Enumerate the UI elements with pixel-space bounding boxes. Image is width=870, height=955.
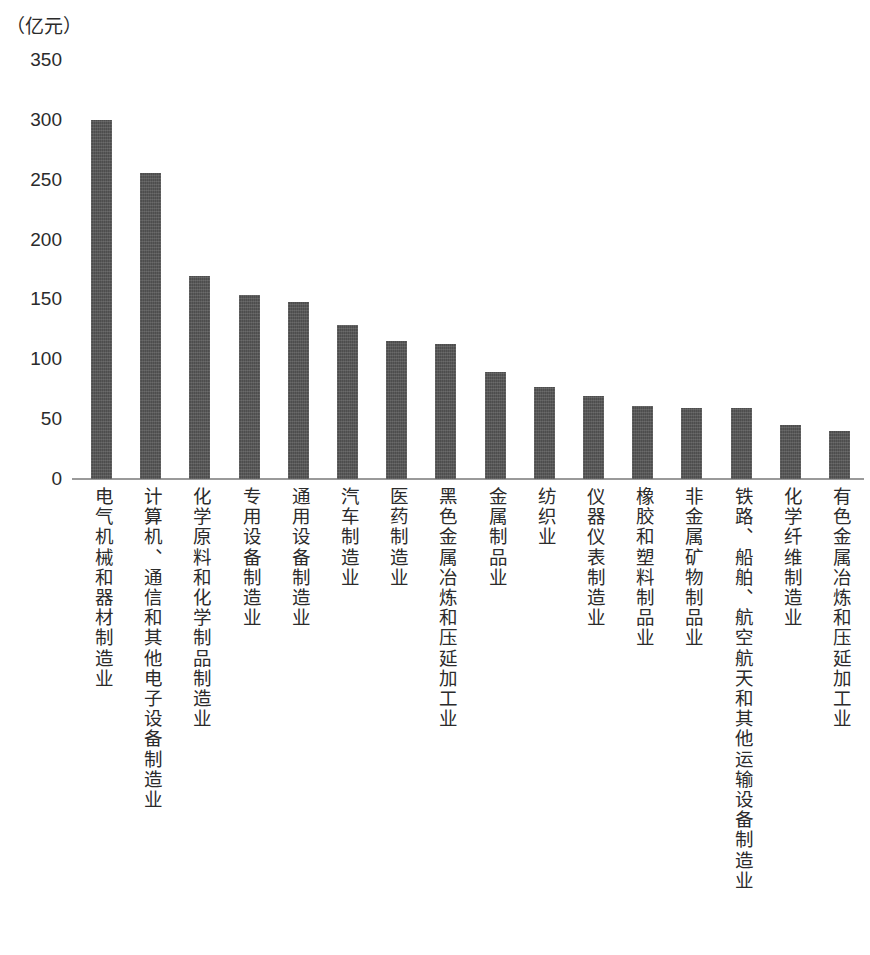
bar	[435, 344, 456, 479]
x-axis-tick-label: 橡胶和塑料制品业	[631, 487, 655, 649]
bar	[189, 276, 210, 480]
bar	[337, 325, 358, 479]
y-axis-tick-label: 300	[30, 109, 62, 128]
x-axis-tick-label: 汽车制造业	[336, 487, 360, 588]
plot-area	[72, 60, 862, 480]
y-axis-tick-label: 350	[30, 50, 62, 69]
bar	[780, 425, 801, 479]
bar	[140, 173, 161, 479]
bar-chart-figure: （亿元） 050100150200250300350 电气机械和器材制造业计算机…	[0, 0, 870, 955]
y-axis-tick-label: 50	[41, 409, 62, 428]
x-axis-tick-label: 通用设备制造业	[287, 487, 311, 628]
x-axis-tick-label: 医药制造业	[385, 487, 409, 588]
x-axis-tick-label: 电气机械和器材制造业	[90, 487, 114, 689]
bar	[681, 408, 702, 479]
x-axis-tick-label: 化学纤维制造业	[779, 487, 803, 628]
bar	[91, 120, 112, 479]
x-axis-tick-label: 铁路、船舶、航空航天和其他运输设备制造业	[730, 487, 754, 891]
y-axis: 050100150200250300350	[0, 0, 62, 955]
x-axis-tick-label: 黑色金属冶炼和压延加工业	[434, 487, 458, 729]
bars-layer	[72, 60, 862, 479]
bar	[534, 387, 555, 479]
x-axis-tick-label: 仪器仪表制造业	[582, 487, 606, 628]
x-axis-tick-label: 有色金属冶炼和压延加工业	[828, 487, 852, 729]
y-axis-tick-label: 250	[30, 169, 62, 188]
y-axis-tick-label: 200	[30, 229, 62, 248]
x-axis-category-labels: 电气机械和器材制造业计算机、通信和其他电子设备制造业化学原料和化学制品制造业专用…	[72, 487, 864, 955]
bar	[583, 396, 604, 479]
x-axis-tick-label: 计算机、通信和其他电子设备制造业	[139, 487, 163, 810]
y-axis-tick-label: 150	[30, 289, 62, 308]
x-axis-tick-label: 化学原料和化学制品制造业	[188, 487, 212, 729]
x-axis-tick-label: 非金属矿物制品业	[680, 487, 704, 649]
x-axis-tick-label: 专用设备制造业	[238, 487, 262, 628]
x-axis-tick-label: 金属制品业	[484, 487, 508, 588]
bar	[288, 302, 309, 479]
bar	[386, 341, 407, 479]
bar	[829, 431, 850, 479]
bar	[239, 295, 260, 479]
y-axis-tick-label: 0	[51, 469, 62, 488]
y-axis-tick-label: 100	[30, 349, 62, 368]
x-axis-tick-label: 纺织业	[533, 487, 557, 548]
bar	[485, 372, 506, 479]
bar	[632, 406, 653, 479]
bar	[731, 408, 752, 479]
